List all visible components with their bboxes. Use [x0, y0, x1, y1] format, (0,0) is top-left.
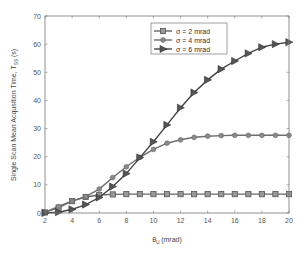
square-marker	[192, 192, 197, 197]
legend-label: σ = 2 mrad	[176, 28, 210, 35]
circle-marker-icon	[161, 38, 166, 43]
square-marker	[178, 192, 183, 197]
legend-item-sigma-2: σ = 2 mrad	[154, 28, 210, 35]
line-chart: 2468101214161820010203040506070 θU(mrad)…	[0, 0, 308, 253]
legend-item-sigma-4: σ = 4 mrad	[154, 37, 210, 44]
circle-marker	[273, 133, 278, 138]
square-marker	[151, 192, 156, 197]
circle-marker	[110, 175, 115, 180]
x-tick-label: 12	[177, 217, 185, 224]
circle-marker	[192, 135, 197, 140]
y-tick-label: 0	[37, 210, 41, 217]
square-marker	[205, 192, 210, 197]
x-axis-label: θU(mrad)	[152, 236, 182, 245]
x-tick-label: 18	[258, 217, 266, 224]
x-tick-label: 6	[97, 217, 101, 224]
square-marker	[232, 192, 237, 197]
x-tick-label: 20	[285, 217, 293, 224]
y-tick-label: 30	[33, 125, 41, 132]
square-marker	[246, 192, 251, 197]
y-tick-label: 60	[33, 41, 41, 48]
legend-label: σ = 6 mrad	[176, 46, 210, 53]
y-tick-label: 20	[33, 153, 41, 160]
square-marker	[164, 192, 169, 197]
legend-item-sigma-6: σ = 6 mrad	[154, 46, 210, 53]
x-tick-label: 14	[204, 217, 212, 224]
y-axis-label: Single Scan Mean Acqusition Time, TSS(s)	[10, 49, 19, 181]
circle-marker	[232, 133, 237, 138]
legend-label: σ = 4 mrad	[176, 37, 210, 44]
x-tick-label: 4	[70, 217, 74, 224]
circle-marker	[97, 187, 102, 192]
y-tick-label: 70	[33, 13, 41, 20]
square-marker	[124, 192, 129, 197]
circle-marker	[124, 164, 129, 169]
circle-marker	[56, 204, 61, 209]
circle-marker	[246, 133, 251, 138]
square-marker	[219, 192, 224, 197]
square-marker	[137, 192, 142, 197]
circle-marker	[151, 147, 156, 152]
x-tick-label: 8	[124, 217, 128, 224]
circle-marker	[70, 198, 75, 203]
circle-marker	[219, 133, 224, 138]
square-marker-icon	[161, 29, 166, 34]
circle-marker	[178, 137, 183, 142]
y-tick-label: 40	[33, 97, 41, 104]
circle-marker	[165, 141, 170, 146]
y-tick-label: 10	[33, 181, 41, 188]
x-tick-label: 16	[231, 217, 239, 224]
square-marker	[259, 192, 264, 197]
circle-marker	[205, 134, 210, 139]
x-tick-label: 2	[43, 217, 47, 224]
circle-marker	[259, 133, 264, 138]
legend: σ = 2 mrad σ = 4 mrad σ = 6 mrad	[151, 23, 227, 54]
square-marker	[110, 192, 115, 197]
y-tick-label: 50	[33, 69, 41, 76]
x-tick-label: 10	[150, 217, 158, 224]
circle-marker	[83, 194, 88, 199]
square-marker	[273, 192, 278, 197]
